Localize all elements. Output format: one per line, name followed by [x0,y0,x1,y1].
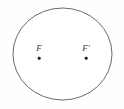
focus-dot-f [38,57,41,60]
ellipse-outline-svg [0,0,124,109]
focus-label-f: F [36,44,42,53]
focus-label-f-prime: F′ [82,44,89,53]
ellipse-curve [13,8,112,100]
ellipse-figure: F F′ [0,0,124,109]
focus-dot-f-prime [85,57,88,60]
